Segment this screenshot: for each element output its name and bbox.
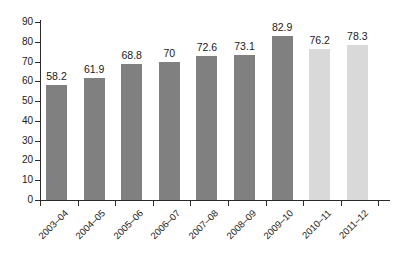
x-tick-mark: [303, 201, 304, 206]
bar: [309, 49, 330, 200]
x-category-label: 2007–08: [180, 208, 220, 248]
y-tick-label-wrap: 50: [0, 96, 33, 106]
x-tick-mark: [78, 201, 79, 206]
x-category-label: 2008–09: [218, 208, 258, 248]
x-category-label: 2011–12: [331, 208, 371, 248]
bar: [196, 56, 217, 200]
y-tick-label-wrap: 80: [0, 37, 33, 47]
bar-value-label: 73.1: [225, 41, 265, 52]
x-axis-line: [40, 200, 390, 201]
y-tick-label: 80: [1, 37, 33, 47]
x-tick-mark: [266, 201, 267, 206]
x-tick-mark: [115, 201, 116, 206]
x-category-label: 2009–10: [256, 208, 296, 248]
y-tick-label: 70: [1, 57, 33, 67]
bar-value-label: 78.3: [337, 31, 377, 42]
y-tick-mark: [35, 42, 40, 43]
y-tick-mark: [35, 22, 40, 23]
y-tick-mark: [35, 141, 40, 142]
bar-chart: 0102030405060708090 58.261.968.87072.673…: [0, 0, 412, 256]
bar: [121, 64, 142, 200]
bar: [347, 45, 368, 200]
x-tick-mark: [341, 201, 342, 206]
y-tick-label-wrap: 90: [0, 17, 33, 27]
y-tick-label-wrap: 10: [0, 175, 33, 185]
y-tick-label: 30: [1, 136, 33, 146]
x-tick-mark: [40, 201, 41, 206]
y-tick-label-wrap: 70: [0, 57, 33, 67]
bar-value-label: 76.2: [300, 35, 340, 46]
y-axis-line: [40, 20, 41, 201]
y-tick-label-wrap: 40: [0, 116, 33, 126]
bar-value-label: 68.8: [112, 50, 152, 61]
y-tick-label-wrap: 0: [0, 195, 33, 205]
bar-value-label: 70: [149, 48, 189, 59]
bar-value-label: 72.6: [187, 42, 227, 53]
y-tick-label: 50: [1, 96, 33, 106]
bar: [272, 36, 293, 200]
y-tick-label: 20: [1, 155, 33, 165]
x-tick-mark: [378, 201, 379, 206]
y-tick-mark: [35, 121, 40, 122]
y-tick-label: 90: [1, 17, 33, 27]
bar-value-label: 82.9: [262, 22, 302, 33]
bar-value-label: 58.2: [37, 71, 77, 82]
y-tick-mark: [35, 160, 40, 161]
y-tick-label: 10: [1, 175, 33, 185]
x-category-label: 2004–05: [68, 208, 108, 248]
x-tick-mark: [228, 201, 229, 206]
y-tick-mark: [35, 62, 40, 63]
bar: [46, 85, 67, 200]
y-tick-mark: [35, 101, 40, 102]
x-category-label: 2003–04: [30, 208, 70, 248]
x-category-label: 2010–11: [293, 208, 333, 248]
y-tick-label: 60: [1, 76, 33, 86]
x-tick-mark: [190, 201, 191, 206]
x-category-label: 2005–06: [105, 208, 145, 248]
bar: [84, 78, 105, 200]
bar: [234, 55, 255, 200]
bar: [159, 62, 180, 200]
y-tick-label-wrap: 20: [0, 155, 33, 165]
y-tick-label: 0: [1, 195, 33, 205]
y-tick-label-wrap: 30: [0, 136, 33, 146]
y-tick-label-wrap: 60: [0, 76, 33, 86]
y-tick-mark: [35, 180, 40, 181]
x-tick-mark: [153, 201, 154, 206]
y-tick-label: 40: [1, 116, 33, 126]
x-category-label: 2006–07: [143, 208, 183, 248]
bar-value-label: 61.9: [74, 64, 114, 75]
